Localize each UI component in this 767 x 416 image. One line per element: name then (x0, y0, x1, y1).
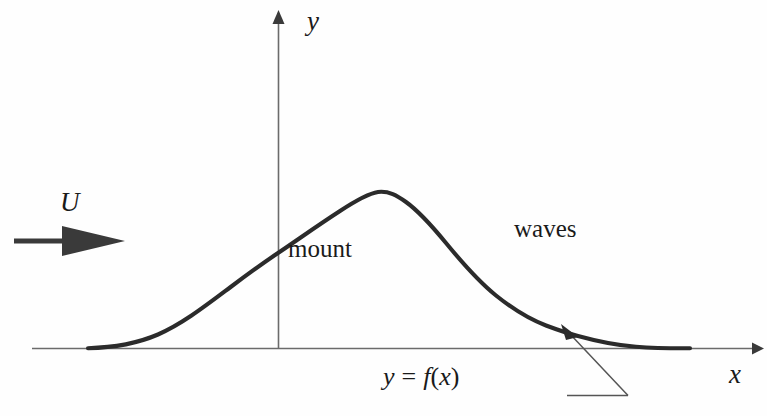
figure-canvas: U y x mount waves y=f(x) (0, 0, 767, 416)
inflow-arrow (14, 226, 125, 256)
inflow-velocity-label: U (60, 189, 80, 216)
y-axis (273, 10, 285, 348)
equation-function-name: f (423, 364, 430, 390)
equation-open-paren: ( (430, 364, 439, 390)
terrain-curve (88, 192, 690, 349)
equation-argument: x (439, 364, 451, 390)
x-axis-arrowhead (752, 343, 764, 355)
surface-equation-label: y=f(x) (383, 364, 459, 390)
equation-lhs: y (383, 364, 395, 390)
x-axis-label: x (729, 361, 741, 388)
mountain-profile-path (88, 192, 690, 349)
equation-leader-arrowhead (561, 324, 578, 340)
inflow-arrow-head (62, 226, 125, 256)
y-axis-arrowhead (273, 10, 285, 24)
mountain-label: mount (288, 236, 352, 261)
equation-leader (561, 324, 628, 396)
equation-close-paren: ) (451, 364, 460, 390)
diagram-svg (0, 0, 767, 416)
equation-operator: = (402, 364, 417, 390)
y-axis-label: y (307, 8, 319, 35)
waves-label: waves (514, 216, 576, 241)
